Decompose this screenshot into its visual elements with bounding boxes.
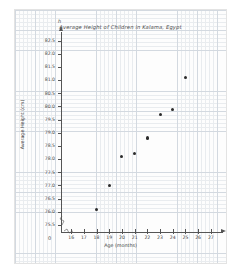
y-tick [58,159,62,160]
x-tick-label: 27 [204,235,218,240]
data-point [108,184,111,187]
y-tick-label: 79.5 [29,117,55,122]
y-tick [58,146,62,147]
x-tick [185,229,186,234]
y-tick-label: 82.0 [29,51,55,56]
x-axis-title: Age (months) [15,243,226,248]
x-tick [135,229,136,234]
y-tick-label: 80.0 [29,104,55,109]
data-point [133,152,136,155]
y-tick [58,212,62,213]
y-axis-arrow-icon [59,26,63,31]
x-tick [211,229,212,234]
y-tick-label: 77.5 [29,170,55,175]
y-tick [58,120,62,121]
y-axis-title: Average Height (cm) [20,90,25,160]
y-tick [58,185,62,186]
x-tick [97,229,98,234]
data-point [120,155,123,158]
y-tick [58,41,62,42]
x-tick [147,229,148,234]
x-axis-arrow-icon [221,229,226,233]
y-tick-label: 76.0 [29,209,55,214]
x-tick [198,229,199,234]
y-tick-label: 76.5 [29,196,55,201]
y-tick [58,225,62,226]
y-tick-label: 80.5 [29,91,55,96]
y-tick-label: 78.0 [29,156,55,161]
x-tick [84,229,85,234]
data-point [184,76,187,79]
y-tick [58,199,62,200]
plot-area: h a 0 75.576.076.577.077.578.078.579.079… [15,10,226,263]
y-tick-label: 77.0 [29,183,55,188]
y-tick [58,80,62,81]
y-tick [58,67,62,68]
y-tick-label: 79.0 [29,130,55,135]
y-tick [58,106,62,107]
y-axis-variable-label: h [58,18,61,24]
x-tick [160,229,161,234]
graph-paper-panel: Average Height of Children in Kalama, Eg… [14,9,227,264]
y-tick-label: 81.5 [29,64,55,69]
y-tick [58,172,62,173]
data-point [159,113,162,116]
y-tick-label: 81.0 [29,77,55,82]
chart-figure: Average Height of Children in Kalama, Eg… [0,0,239,272]
data-point [171,108,174,111]
y-tick [58,54,62,55]
data-point [95,208,98,211]
x-tick [109,229,110,234]
data-point [146,136,149,139]
y-tick-label: 75.5 [29,222,55,227]
y-tick [58,133,62,134]
y-tick [58,93,62,94]
x-tick [122,229,123,234]
y-tick-label: 82.5 [29,38,55,43]
x-tick [71,229,72,234]
y-tick-label-group: 75.576.076.577.077.578.078.579.079.580.0… [27,10,55,263]
y-axis-break-icon [59,216,65,225]
x-tick [173,229,174,234]
y-tick-label: 78.5 [29,143,55,148]
